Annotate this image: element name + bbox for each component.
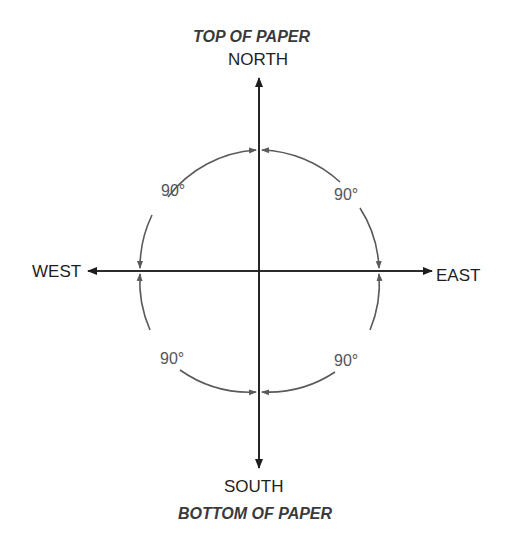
angle-label-upper-right: 90° xyxy=(334,186,358,204)
bottom-of-paper-label: BOTTOM OF PAPER xyxy=(178,505,332,523)
arc-lower-left-west xyxy=(140,274,150,330)
north-label: NORTH xyxy=(228,50,288,70)
arc-lower-left-bottom xyxy=(180,370,256,392)
top-of-paper-label: TOP OF PAPER xyxy=(193,28,310,46)
angle-label-upper-left: 90° xyxy=(161,182,185,200)
angle-label-lower-right: 90° xyxy=(334,352,358,370)
arc-upper-right-east xyxy=(360,208,379,268)
west-label: WEST xyxy=(32,262,81,282)
arc-lower-right-bottom xyxy=(262,372,335,392)
south-label: SOUTH xyxy=(224,477,284,497)
angle-label-lower-left: 90° xyxy=(160,350,184,368)
arc-upper-right-top xyxy=(262,150,340,182)
arc-upper-left-west xyxy=(140,215,152,268)
arc-lower-right-east xyxy=(370,274,379,330)
east-label: EAST xyxy=(436,266,480,286)
